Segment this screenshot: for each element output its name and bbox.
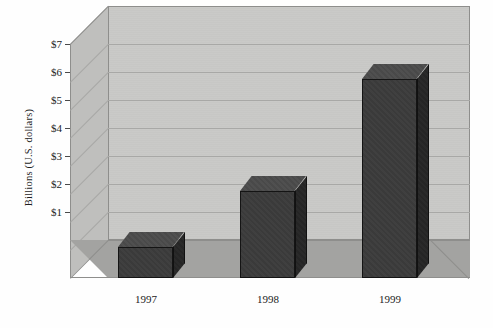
bar-1999-front: [362, 79, 417, 278]
y-axis-title: Billions (U.S. dollars): [23, 68, 34, 248]
y-tick-2: [65, 184, 70, 185]
bar-1999: [362, 20, 428, 278]
plot-left-wall-top-edge: [70, 6, 109, 45]
bar-1998-top: [240, 176, 306, 191]
y-tick-4: [65, 128, 70, 129]
y-tick-6: [65, 72, 70, 73]
plot-left-wall: [70, 6, 108, 278]
bar-1999-top: [362, 64, 428, 79]
y-tick-7: [65, 44, 70, 45]
y-tick-label-7: $7: [22, 39, 62, 50]
bar-1998-front: [240, 191, 295, 278]
bar-1997: [118, 40, 184, 278]
bar-1997-top: [118, 232, 184, 247]
bar-1998-side: [295, 176, 307, 278]
x-tick-label-1998: 1998: [232, 293, 304, 305]
bar-1997-front: [118, 247, 173, 278]
floor-left-bevel: [70, 240, 109, 279]
y-tick-1: [65, 212, 70, 213]
floor-right-bevel: [431, 240, 471, 279]
y-tick-3: [65, 156, 70, 157]
bar-1999-side: [417, 64, 429, 278]
y-tick-5: [65, 100, 70, 101]
x-tick-label-1999: 1999: [354, 293, 426, 305]
bar-1998: [240, 40, 306, 278]
chart-3d-scene: $7 $6 $5 $4 $3 $2 $1 Billions (U.S. doll…: [0, 0, 493, 328]
bar-chart-figure: $7 $6 $5 $4 $3 $2 $1 Billions (U.S. doll…: [0, 0, 493, 328]
x-tick-label-1997: 1997: [110, 293, 182, 305]
